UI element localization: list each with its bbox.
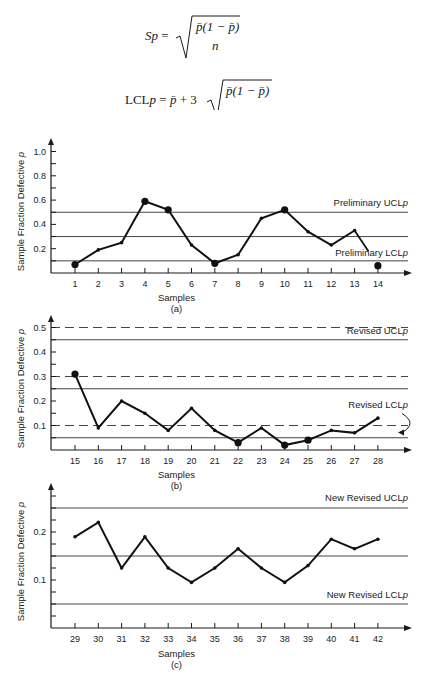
data-point <box>120 241 124 245</box>
x-axis-arrow-icon <box>404 270 412 276</box>
y-tick-label: 0.2 <box>33 527 46 537</box>
data-point <box>236 547 240 551</box>
data-point <box>376 537 380 541</box>
y-tick-label: 0.4 <box>33 219 46 229</box>
ucl-label: Preliminary UCLp <box>334 197 408 208</box>
x-tick-label: 19 <box>163 456 173 466</box>
x-axis-title: Samples <box>158 469 195 480</box>
data-point <box>353 229 357 233</box>
x-tick-label: 15 <box>70 456 80 466</box>
data-point <box>236 253 240 257</box>
y-axis-arrow-icon <box>48 138 54 145</box>
data-point <box>190 407 194 411</box>
y-axis-arrow-icon <box>48 315 54 322</box>
data-point <box>330 537 334 541</box>
data-point <box>97 426 101 430</box>
data-point <box>190 581 194 585</box>
data-point <box>73 535 77 539</box>
x-axis-title: Samples <box>158 292 195 303</box>
x-tick-label: 35 <box>210 634 220 644</box>
x-tick-label: 17 <box>117 456 127 466</box>
lcl-label: Revised LCLp <box>348 399 408 410</box>
data-point <box>260 566 264 570</box>
x-tick-label: 6 <box>189 279 194 289</box>
x-tick-label: 7 <box>212 279 217 289</box>
ucl-label: Revised UCLp <box>347 325 408 336</box>
data-point <box>143 535 147 539</box>
y-axis-arrow-icon <box>48 483 54 490</box>
x-tick-label: 23 <box>256 456 266 466</box>
panel-label: (a) <box>171 303 183 314</box>
x-tick-label: 10 <box>280 279 290 289</box>
x-tick-label: 31 <box>117 634 127 644</box>
data-point <box>120 399 124 403</box>
x-tick-label: 8 <box>236 279 241 289</box>
data-point <box>281 206 288 213</box>
x-axis-arrow-icon <box>404 447 412 453</box>
lcl-label: Preliminary LCLp <box>335 247 408 258</box>
x-tick-label: 14 <box>373 279 383 289</box>
x-tick-label: 29 <box>70 634 80 644</box>
x-tick-label: 25 <box>303 456 313 466</box>
data-point <box>143 411 147 415</box>
data-point <box>165 206 172 213</box>
data-point <box>71 370 78 377</box>
y-axis-title: Sample Fraction Defective p <box>15 152 26 271</box>
x-tick-label: 27 <box>350 456 360 466</box>
data-point <box>283 581 287 585</box>
x-tick-label: 32 <box>140 634 150 644</box>
data-point <box>260 217 264 221</box>
chart-c: 0.10.22930313233343536373839404142Sample… <box>15 483 412 670</box>
data-point <box>376 416 380 420</box>
x-tick-label: 36 <box>233 634 243 644</box>
x-tick-label: 4 <box>142 279 147 289</box>
x-tick-label: 22 <box>233 456 243 466</box>
data-series-line <box>75 374 378 445</box>
x-tick-label: 34 <box>186 634 196 644</box>
x-tick-label: 42 <box>373 634 383 644</box>
lcl-arrow-icon <box>398 430 404 436</box>
x-tick-label: 21 <box>210 456 220 466</box>
y-tick-label: 0.4 <box>33 347 46 357</box>
data-point <box>306 230 310 234</box>
x-tick-label: 2 <box>96 279 101 289</box>
x-tick-label: 5 <box>166 279 171 289</box>
panel-label: (c) <box>171 659 182 670</box>
y-axis-title: Sample Fraction Defective p <box>15 502 26 621</box>
panel-label: (b) <box>171 480 183 491</box>
data-point <box>190 243 194 247</box>
data-point <box>260 426 264 430</box>
chart-b: 0.10.20.30.40.51516171819202122232425262… <box>15 315 412 491</box>
x-tick-label: 37 <box>256 634 266 644</box>
data-point <box>97 248 101 252</box>
y-tick-label: 0.8 <box>33 171 46 181</box>
x-axis-arrow-icon <box>404 625 412 631</box>
chart-a: 0.20.40.60.81.01234567891011121314Sample… <box>15 138 412 314</box>
x-tick-label: 20 <box>186 456 196 466</box>
data-point <box>330 243 334 247</box>
data-point <box>353 431 357 435</box>
y-axis-title: Sample Fraction Defective p <box>15 329 26 448</box>
data-point <box>281 442 288 449</box>
control-charts: 0.20.40.60.81.01234567891011121314Sample… <box>0 0 430 685</box>
x-tick-label: 28 <box>373 456 383 466</box>
data-point <box>213 429 217 433</box>
data-point <box>166 566 170 570</box>
data-point <box>213 566 217 570</box>
y-tick-label: 1.0 <box>33 147 46 157</box>
data-point <box>330 429 334 433</box>
data-series-line <box>75 522 378 582</box>
x-tick-label: 3 <box>119 279 124 289</box>
x-tick-label: 13 <box>350 279 360 289</box>
data-point <box>306 564 310 568</box>
data-point <box>97 521 101 525</box>
data-point <box>141 198 148 205</box>
x-tick-label: 38 <box>280 634 290 644</box>
data-point <box>211 260 218 267</box>
y-tick-label: 0.3 <box>33 372 46 382</box>
y-tick-label: 0.2 <box>33 244 46 254</box>
ucl-label: New Revised UCLp <box>325 492 408 503</box>
y-tick-label: 0.6 <box>33 195 46 205</box>
data-point <box>235 439 242 446</box>
data-point <box>353 547 357 551</box>
